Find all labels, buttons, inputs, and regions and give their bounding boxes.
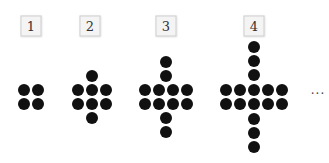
figure-2-dot xyxy=(72,84,84,96)
figure-label-1: 1 xyxy=(21,16,42,37)
figure-4-dot xyxy=(276,98,288,110)
figure-1-dot xyxy=(32,84,44,96)
figure-3-dot xyxy=(139,98,151,110)
figure-2-dot xyxy=(100,84,112,96)
figure-3-dot xyxy=(160,56,172,68)
figure-1-dot xyxy=(18,84,30,96)
figure-3-dot xyxy=(181,98,193,110)
figure-4-dot xyxy=(248,84,260,96)
figure-4-dot xyxy=(248,69,260,81)
figure-3-dot xyxy=(167,84,179,96)
figure-2-dot xyxy=(86,112,98,124)
figure-3-dot xyxy=(160,112,172,124)
figure-2-dot xyxy=(86,84,98,96)
figure-label-4: 4 xyxy=(244,16,265,37)
figure-4-dot xyxy=(276,84,288,96)
continuation-ellipsis: ··· xyxy=(311,87,325,101)
figure-4-dot xyxy=(248,98,260,110)
figure-label-3: 3 xyxy=(156,16,177,37)
figure-3-dot xyxy=(153,84,165,96)
figure-4-dot xyxy=(262,98,274,110)
figure-4-dot xyxy=(220,98,232,110)
figure-2-dot xyxy=(86,70,98,82)
figure-3-dot xyxy=(153,98,165,110)
figure-4-dot xyxy=(234,84,246,96)
figure-2-dot xyxy=(100,98,112,110)
figure-4-dot xyxy=(248,141,260,153)
figure-label-2: 2 xyxy=(80,16,101,37)
figure-2-dot xyxy=(72,98,84,110)
figure-1-dot xyxy=(18,98,30,110)
figure-4-dot xyxy=(248,113,260,125)
figure-3-dot xyxy=(167,98,179,110)
figure-4-dot xyxy=(220,84,232,96)
figure-3-dot xyxy=(160,70,172,82)
figure-3-dot xyxy=(181,84,193,96)
figure-3-dot xyxy=(139,84,151,96)
figure-4-dot xyxy=(234,98,246,110)
figure-4-dot xyxy=(248,55,260,67)
figure-4-dot xyxy=(262,84,274,96)
figure-4-dot xyxy=(248,41,260,53)
figure-2-dot xyxy=(86,98,98,110)
figure-4-dot xyxy=(248,127,260,139)
figure-1-dot xyxy=(32,98,44,110)
figure-3-dot xyxy=(160,126,172,138)
